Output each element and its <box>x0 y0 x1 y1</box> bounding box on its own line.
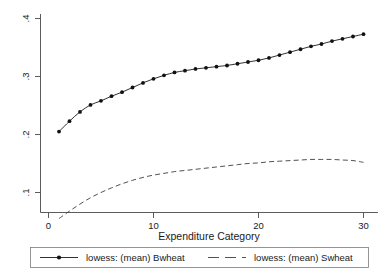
y-tick-label: .4 <box>20 15 31 23</box>
data-point-marker <box>131 86 135 90</box>
data-point-marker <box>173 71 177 75</box>
data-point-marker <box>194 67 198 71</box>
data-point-marker <box>267 56 271 60</box>
y-tick-label: .3 <box>20 73 31 81</box>
data-point-marker <box>204 66 208 70</box>
data-point-marker <box>278 53 282 57</box>
data-point-marker <box>141 81 145 85</box>
data-point-marker <box>288 50 292 54</box>
legend-label-bwheat: lowess: (mean) Bwheat <box>86 252 185 263</box>
y-tick-label: .2 <box>20 131 31 139</box>
data-point-marker <box>246 60 250 64</box>
x-axis-title: Expenditure Category <box>158 230 260 242</box>
legend-marker-dot <box>57 255 61 259</box>
data-point-marker <box>152 77 156 81</box>
lowess-line-chart: .4 .3 .2 .1 0 10 20 30 Expenditure Categ… <box>0 0 390 277</box>
data-point-marker <box>299 47 303 51</box>
data-point-marker <box>68 119 72 123</box>
data-point-marker <box>99 99 103 103</box>
data-point-marker <box>330 39 334 43</box>
data-point-marker <box>183 69 187 73</box>
data-point-marker <box>89 103 93 107</box>
data-point-marker <box>236 62 240 66</box>
legend-label-swheat: lowess: (mean) Swheat <box>254 252 353 263</box>
data-point-marker <box>309 44 313 48</box>
data-point-marker <box>57 130 61 134</box>
data-point-marker <box>320 42 324 46</box>
data-point-marker <box>215 65 219 69</box>
data-point-marker <box>362 32 366 36</box>
x-tick-label: 10 <box>148 220 159 231</box>
data-point-marker <box>162 73 166 77</box>
data-point-marker <box>120 90 124 94</box>
data-point-marker <box>78 110 82 114</box>
data-point-marker <box>351 35 355 39</box>
chart-figure: .4 .3 .2 .1 0 10 20 30 Expenditure Categ… <box>0 0 390 277</box>
x-tick-label: 0 <box>46 220 51 231</box>
data-point-marker <box>110 94 114 98</box>
data-point-marker <box>257 58 261 62</box>
data-point-marker <box>341 37 345 41</box>
data-point-marker <box>225 64 229 68</box>
x-tick-label: 30 <box>358 220 369 231</box>
y-tick-label: .1 <box>20 189 31 197</box>
